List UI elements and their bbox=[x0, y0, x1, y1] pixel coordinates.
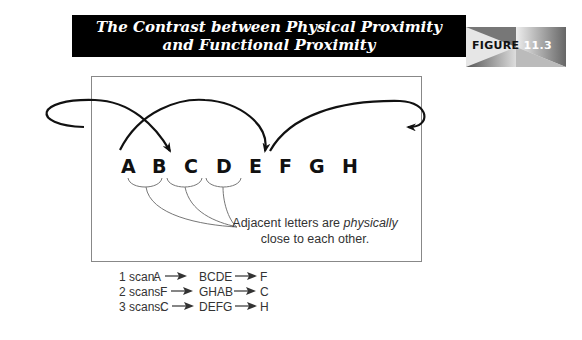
arc-f-to-right bbox=[270, 101, 424, 151]
arrow-right-icon bbox=[172, 302, 194, 310]
letter-a: A bbox=[121, 155, 136, 177]
scan-label: 1 scan: bbox=[119, 270, 158, 285]
caption-text: Adjacent letters are bbox=[232, 216, 343, 230]
letter-b: B bbox=[152, 155, 166, 177]
arrow-right-icon bbox=[235, 302, 257, 310]
arc-to-c bbox=[47, 100, 170, 151]
scan-from: A bbox=[153, 270, 161, 285]
letter-c: C bbox=[184, 155, 198, 177]
arrow-right-icon bbox=[171, 287, 193, 295]
arrow-right-icon bbox=[165, 272, 187, 280]
letter-h: H bbox=[342, 155, 358, 177]
scan-middle: GHAB bbox=[199, 285, 233, 300]
letter-d: D bbox=[216, 155, 232, 177]
scan-to: F bbox=[260, 270, 267, 285]
letter-g: G bbox=[309, 155, 325, 177]
arrow-right-icon bbox=[234, 287, 256, 295]
scan-label: 3 scans: bbox=[119, 300, 164, 315]
adjacency-caption: Adjacent letters are physically close to… bbox=[220, 215, 410, 247]
scan-from: C bbox=[160, 300, 169, 315]
letter-e: E bbox=[249, 155, 262, 177]
scan-middle: BCDE bbox=[199, 270, 232, 285]
arrow-right-icon bbox=[235, 272, 257, 280]
scan-from: F bbox=[160, 285, 167, 300]
scan-to: C bbox=[260, 285, 269, 300]
caption-emphasis: physically bbox=[343, 216, 397, 230]
letter-f: F bbox=[279, 155, 292, 177]
scan-to: H bbox=[260, 300, 269, 315]
scan-middle: DEFG bbox=[199, 300, 232, 315]
caption-text-2: close to each other. bbox=[261, 232, 369, 246]
scan-label: 2 scans: bbox=[119, 285, 164, 300]
arc-a-to-f bbox=[120, 100, 266, 151]
